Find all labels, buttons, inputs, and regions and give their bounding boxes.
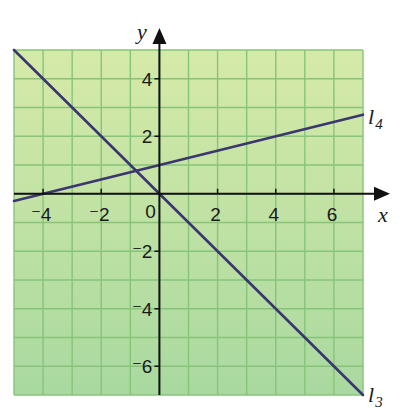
- line-label-l3: l3: [368, 382, 383, 409]
- y-tick-label: 2: [142, 126, 153, 147]
- y-tick-label: ⁻4: [132, 299, 153, 320]
- x-tick-label: ⁻4: [31, 204, 52, 225]
- y-tick-label: 4: [142, 69, 153, 90]
- x-axis-arrow-icon: [374, 187, 390, 201]
- y-axis-label: y: [135, 19, 147, 44]
- line-labels: l3l4: [368, 104, 383, 409]
- origin-label: 0: [145, 201, 156, 222]
- x-tick-label: 2: [210, 204, 221, 225]
- x-tick-label: 6: [327, 204, 338, 225]
- x-axis-label: x: [377, 202, 388, 227]
- line-label-l4: l4: [368, 104, 383, 132]
- y-axis-arrow-icon: [152, 28, 166, 44]
- coordinate-graph: ⁻4⁻224642⁻2⁻4⁻60xy l3l4: [0, 0, 401, 409]
- x-tick-label: ⁻2: [89, 204, 110, 225]
- x-tick-label: 4: [268, 204, 279, 225]
- y-tick-label: ⁻6: [132, 356, 153, 377]
- y-tick-label: ⁻2: [132, 241, 153, 262]
